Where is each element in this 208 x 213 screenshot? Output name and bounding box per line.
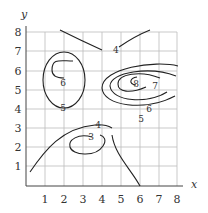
svg-text:6: 6	[15, 65, 22, 78]
svg-text:1: 1	[15, 160, 22, 173]
svg-text:6: 6	[60, 78, 66, 88]
svg-text:5: 5	[118, 193, 125, 206]
svg-text:4: 4	[99, 193, 106, 206]
svg-text:8: 8	[133, 79, 139, 89]
svg-text:3: 3	[15, 122, 22, 135]
contour-plot: 1 2 3 4 5 6 7 8 1 2 3 4 5 6 7 8 x y 4 6 …	[0, 0, 208, 213]
svg-text:4: 4	[95, 120, 101, 130]
x-tick-labels: 1 2 3 4 5 6 7 8	[42, 193, 181, 206]
x-axis-label: x	[191, 178, 198, 191]
svg-text:7: 7	[152, 81, 158, 91]
svg-text:6: 6	[146, 104, 152, 114]
svg-text:7: 7	[15, 45, 22, 58]
svg-text:8: 8	[174, 193, 181, 206]
svg-text:2: 2	[61, 193, 68, 206]
y-tick-labels: 1 2 3 4 5 6 7 8	[15, 26, 22, 173]
svg-text:2: 2	[15, 141, 22, 154]
svg-text:8: 8	[15, 26, 22, 39]
grid	[26, 32, 177, 186]
svg-text:6: 6	[137, 193, 144, 206]
svg-text:5: 5	[15, 84, 22, 97]
svg-text:1: 1	[42, 193, 49, 206]
svg-text:4: 4	[15, 103, 22, 116]
svg-text:5: 5	[60, 103, 66, 113]
contour-labels: 4 6 5 8 7 6 5 4 3	[60, 45, 158, 142]
contours	[30, 30, 178, 186]
svg-text:5: 5	[138, 114, 144, 124]
svg-text:7: 7	[156, 193, 163, 206]
y-axis-label: y	[20, 8, 28, 21]
svg-text:4: 4	[113, 45, 119, 55]
svg-text:3: 3	[80, 193, 87, 206]
svg-text:3: 3	[88, 132, 94, 142]
